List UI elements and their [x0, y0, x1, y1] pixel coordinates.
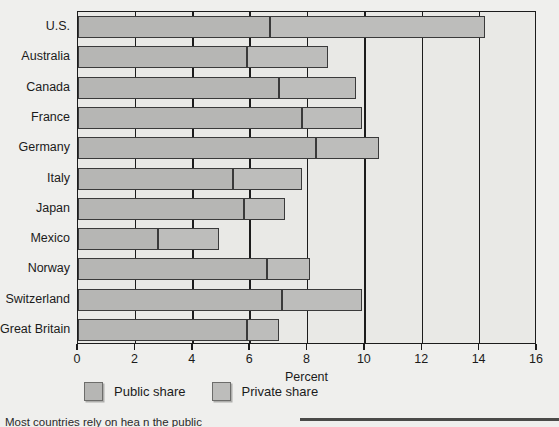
x-axis-tick — [363, 344, 365, 350]
y-axis-labels: U.S.AustraliaCanadaFranceGermanyItalyJap… — [0, 11, 559, 344]
legend-item-private-share: Private share — [212, 382, 319, 401]
x-axis-tick-label: 6 — [246, 352, 253, 366]
x-axis-tick-label: 12 — [414, 352, 428, 366]
y-axis-label: Switzerland — [0, 292, 70, 306]
x-axis-tick-label: 4 — [188, 352, 195, 366]
private-share-swatch — [212, 382, 231, 401]
x-axis-tick — [421, 344, 423, 350]
public-share-swatch — [84, 382, 103, 401]
y-axis-label: Italy — [0, 171, 70, 185]
x-axis-tick — [248, 344, 250, 350]
legend-label-public-share: Public share — [114, 384, 186, 399]
x-axis-tick — [535, 344, 537, 350]
page-caption: Most countries rely on hea n the public — [5, 416, 202, 427]
x-axis-tick — [191, 344, 193, 350]
y-axis-label: Australia — [0, 49, 70, 63]
chart-figure: U.S.AustraliaCanadaFranceGermanyItalyJap… — [0, 0, 559, 427]
y-axis-label: U.S. — [0, 19, 70, 33]
x-axis-tick-label: 10 — [357, 352, 371, 366]
y-axis-label: Canada — [0, 80, 70, 94]
y-axis-label: Norway — [0, 261, 70, 275]
x-axis-tick — [478, 344, 480, 350]
x-axis-tick-label: 16 — [529, 352, 543, 366]
x-axis-tick — [306, 344, 308, 350]
x-axis-tick — [76, 344, 78, 350]
x-axis-tick — [134, 344, 136, 350]
legend-item-public-share: Public share — [84, 382, 186, 401]
y-axis-label: France — [0, 110, 70, 124]
y-axis-label: Great Britain — [0, 322, 70, 336]
x-axis-tick-label: 14 — [472, 352, 486, 366]
legend-label-private-share: Private share — [242, 384, 319, 399]
x-axis-tick-label: 0 — [74, 352, 81, 366]
x-axis-tick-label: 2 — [131, 352, 138, 366]
x-axis-tick-label: 8 — [303, 352, 310, 366]
x-axis: Percent 0246810121416 — [77, 344, 536, 345]
y-axis-label: Japan — [0, 201, 70, 215]
y-axis-label: Germany — [0, 140, 70, 154]
chart-legend: Public share Private share — [84, 382, 318, 401]
caption-rule — [300, 418, 559, 421]
y-axis-label: Mexico — [0, 231, 70, 245]
